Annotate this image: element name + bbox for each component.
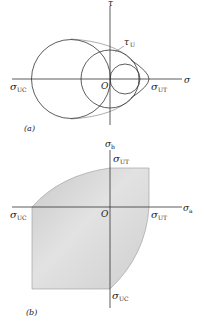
sigma-ut-sub-a: UT (158, 86, 167, 93)
envelope-lower (71, 98, 131, 119)
sigma-b-axis-sub: b (111, 143, 115, 150)
sigma-ut-right-sub: UT (158, 214, 167, 221)
sigma-uc-left-sub: UC (17, 214, 27, 221)
tau-u-sub: U (130, 41, 135, 48)
sigma-uc-bottom-sub: UC (119, 295, 129, 302)
tau-axis-label: τ (108, 0, 114, 8)
envelope-upper (71, 39, 131, 60)
figure-b: σ b σ a σ UT O σ UT σ UC σ UC (b) (10, 139, 193, 317)
sigma-axis-label: σ (184, 75, 191, 85)
sigma-ut-top-sub: UT (120, 158, 129, 165)
figure-a: τ σ τ U O σ UC σ UT (a) (10, 0, 191, 133)
caption-a: (a) (24, 124, 35, 133)
safe-region (32, 168, 149, 289)
sigma-uc-sub-a: UC (17, 86, 27, 93)
mohr-failure-diagram: τ σ τ U O σ UC σ UT (a) σ b σ a σ UT O σ… (0, 0, 204, 326)
caption-b: (b) (26, 308, 37, 317)
origin-label-a: O (101, 81, 109, 91)
origin-label-b: O (101, 209, 109, 219)
sigma-a-axis-sub: a (189, 207, 193, 214)
